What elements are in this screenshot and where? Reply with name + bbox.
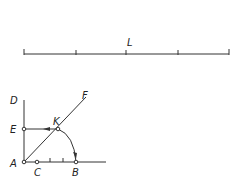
scale-bar [24,49,229,55]
geometry [24,97,106,162]
arc-KB [58,129,76,162]
construction-diagram: L D E A C B K F [0,0,248,180]
arrowhead-E [43,127,50,131]
label-A: A [9,158,17,169]
scale-label: L [127,37,133,48]
label-C: C [34,167,41,178]
arrowhead-B [73,152,77,159]
label-B: B [72,167,79,178]
label-E: E [10,124,17,135]
label-D: D [10,95,18,106]
label-F: F [82,90,88,101]
label-K: K [53,116,61,127]
